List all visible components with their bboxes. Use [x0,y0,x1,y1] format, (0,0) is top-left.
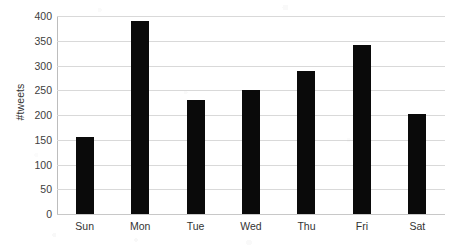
y-axis-tick-250: 250 [4,85,52,96]
bar-thu [297,71,315,214]
x-axis-tick-sun: Sun [55,220,115,233]
x-axis-tick-thu: Thu [276,220,336,233]
bar-sat [408,114,426,214]
x-axis-tick-sat: Sat [387,220,447,233]
x-axis-tick-mon: Mon [110,220,170,233]
bar-wed [242,90,260,214]
y-axis-title: #tweets [14,72,26,132]
bar-mon [131,21,149,214]
y-axis-tick-150: 150 [4,135,52,146]
y-axis-tick-labels: 050100150200250300350400 [0,16,52,214]
gridline-350 [57,41,445,42]
bar-fri [353,45,371,214]
y-axis-tick-350: 350 [4,36,52,47]
y-axis-tick-0: 0 [4,209,52,220]
y-axis-tick-50: 50 [4,184,52,195]
bar-tue [187,100,205,214]
y-axis-tick-300: 300 [4,60,52,71]
gridline-0 [57,214,445,215]
x-axis-tick-fri: Fri [332,220,392,233]
x-axis-tick-wed: Wed [221,220,281,233]
gridline-400 [57,16,445,17]
plot-area [57,16,445,214]
bar-chart-figure: 050100150200250300350400 #tweets SunMonT… [0,0,453,250]
y-axis-tick-100: 100 [4,159,52,170]
bar-sun [76,137,94,214]
x-axis-category-labels: SunMonTueWedThuFriSat [57,220,445,238]
gridline-300 [57,66,445,67]
y-axis-tick-200: 200 [4,110,52,121]
x-axis-tick-tue: Tue [166,220,226,233]
y-axis-tick-400: 400 [4,11,52,22]
